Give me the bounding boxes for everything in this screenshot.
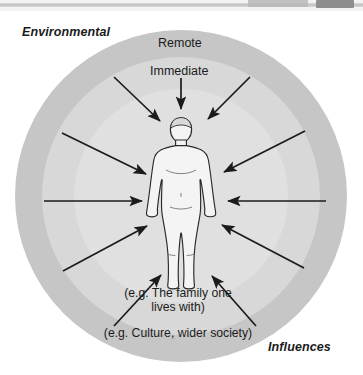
- address-field-fragment[interactable]: [248, 0, 308, 7]
- cropped-toolbar-strip: [0, 0, 363, 11]
- label-example-immediate: (e.g. The family one lives with): [111, 286, 245, 315]
- label-influences: Influences: [268, 340, 331, 354]
- label-example-remote: (e.g. Culture, wider society): [103, 326, 253, 340]
- label-environmental: Environmental: [22, 25, 110, 39]
- environmental-influences-diagram: Environmental Influences Remote Immediat…: [0, 11, 363, 375]
- label-immediate: Immediate: [150, 64, 208, 78]
- toolbar-rule: [0, 3, 363, 7]
- toolbar-button-fragment[interactable]: [316, 0, 354, 8]
- label-remote: Remote: [158, 36, 202, 50]
